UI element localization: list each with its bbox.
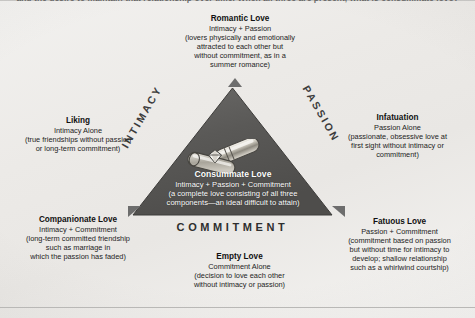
- callout-romantic-line-3: without commitment, as in a: [140, 51, 340, 60]
- callout-romantic-heading: Romantic Love: [140, 14, 340, 23]
- consummate-love-description-line-1: (a complete love consisting of all three: [137, 189, 329, 198]
- callout-liking-heading: Liking: [8, 116, 148, 125]
- callout-infatuation: Infatuation Passion Alone (passionate, o…: [325, 113, 470, 159]
- cut-off-caption-text: and the desire to maintain that relation…: [0, 0, 475, 4]
- consummate-love-description-line-2: components—an ideal difficult to attain): [137, 198, 329, 207]
- triangle-side-label-commitment: COMMITMENT: [177, 221, 289, 233]
- callout-infatuation-formula: Passion Alone: [325, 123, 470, 132]
- callout-companionate-formula: Intimacy + Commitment: [4, 225, 152, 234]
- callout-romantic-formula: Intimacy + Passion: [140, 24, 340, 33]
- cut-off-caption-line: and the desire to maintain that relation…: [0, 0, 475, 4]
- callout-liking: Liking Intimacy Alone (true friendships …: [8, 116, 148, 153]
- callout-romantic-line-2: attracted to each other but: [140, 42, 340, 51]
- callout-companionate-love: Companionate Love Intimacy + Commitment …: [4, 215, 152, 261]
- callout-romantic-line-4: summer romance): [140, 60, 340, 69]
- callout-empty-line-1: (decision to love each other: [152, 271, 327, 280]
- callout-fatuous-heading: Fatuous Love: [326, 217, 473, 226]
- pointer-arrow-romantic: [228, 78, 242, 87]
- callout-fatuous-line-3: develop; shallow relationship: [326, 254, 473, 263]
- callout-empty-love: Empty Love Commitment Alone (decision to…: [152, 252, 327, 289]
- callout-empty-formula: Commitment Alone: [152, 262, 327, 271]
- callout-companionate-heading: Companionate Love: [4, 215, 152, 224]
- callout-fatuous-love: Fatuous Love Passion + Commitment (commi…: [326, 217, 473, 272]
- callout-companionate-line-1: (long-term committed friendship: [4, 234, 152, 243]
- callout-empty-heading: Empty Love: [152, 252, 327, 261]
- callout-liking-line-1: (true friendships without passion: [8, 135, 148, 144]
- callout-fatuous-line-1: (commitment based on passion: [326, 236, 473, 245]
- callout-liking-line-2: or long-term commitment): [8, 144, 148, 153]
- callout-empty-line-2: without intimacy or passion): [152, 280, 327, 289]
- consummate-love-heading: Consummate Love: [137, 170, 329, 179]
- bottom-divider-rule: [0, 307, 475, 308]
- callout-companionate-line-3: which the passion has faded): [4, 252, 152, 261]
- callout-infatuation-heading: Infatuation: [325, 113, 470, 122]
- consummate-love-center-text: Consummate Love Intimacy + Passion + Com…: [137, 170, 329, 208]
- callout-companionate-line-2: such as marriage in: [4, 243, 152, 252]
- triangular-theory-of-love-figure: and the desire to maintain that relation…: [0, 0, 475, 318]
- callout-liking-formula: Intimacy Alone: [8, 126, 148, 135]
- pointer-arrow-fatuous: [332, 206, 345, 217]
- callout-infatuation-line-3: commitment): [325, 150, 470, 159]
- callout-fatuous-formula: Passion + Commitment: [326, 227, 473, 236]
- callout-infatuation-line-2: first sight without intimacy or: [325, 141, 470, 150]
- callout-fatuous-line-4: such as a whirlwind courtship): [326, 263, 473, 272]
- consummate-love-formula: Intimacy + Passion + Commitment: [137, 180, 329, 189]
- callout-fatuous-line-2: but without time for intimacy to: [326, 245, 473, 254]
- callout-romantic-love: Romantic Love Intimacy + Passion (lovers…: [140, 14, 340, 69]
- callout-infatuation-line-1: (passionate, obsessive love at: [325, 132, 470, 141]
- callout-romantic-line-1: (lovers physically and emotionally: [140, 33, 340, 42]
